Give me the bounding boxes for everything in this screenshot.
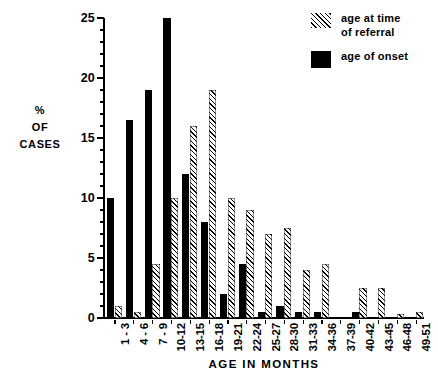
x-axis-title: AGE IN MONTHS (104, 358, 424, 370)
y-tick-minor (100, 245, 104, 246)
y-tick-label: 5 (88, 251, 95, 265)
bar-referral (322, 264, 329, 318)
bar-onset (182, 174, 189, 318)
x-tick-mark (227, 320, 228, 324)
bar-referral (359, 288, 366, 318)
bar-referral (190, 126, 197, 318)
y-tick-minor (100, 233, 104, 234)
y-tick-minor (100, 209, 104, 210)
x-tick-mark (171, 320, 172, 324)
y-tick-major (97, 77, 104, 79)
chart-legend: age at time of referral age of onset (311, 12, 435, 68)
x-tick-label: 13-15 (194, 323, 206, 351)
x-tick-label: 25-27 (270, 323, 282, 351)
bar-referral (246, 210, 253, 318)
legend-onset-line-1: age of onset (341, 50, 408, 64)
bar-referral (265, 234, 272, 318)
y-tick-major (97, 197, 104, 199)
bar-onset (295, 312, 302, 318)
y-tick-minor (100, 125, 104, 126)
x-tick-mark (246, 320, 247, 324)
y-tick-major (97, 17, 104, 19)
bar-onset (107, 198, 114, 318)
x-tick-label: 40-42 (364, 323, 376, 351)
x-tick-label: 31-33 (307, 323, 319, 351)
bar-referral (209, 90, 216, 318)
y-tick-minor (100, 185, 104, 186)
y-tick-minor (100, 41, 104, 42)
x-tick-label: 22-24 (251, 323, 263, 351)
y-tick-minor (100, 293, 104, 294)
x-tick-mark (378, 320, 379, 324)
y-tick-minor (100, 53, 104, 54)
y-tick-minor (100, 221, 104, 222)
y-tick-minor (100, 89, 104, 90)
y-tick-major (97, 137, 104, 139)
x-tick-mark (133, 320, 134, 324)
x-tick-label: 4 - 6 (138, 323, 150, 345)
legend-item-referral-label: age at time of referral (341, 12, 401, 39)
bar-onset (163, 18, 170, 318)
x-tick-label: 10-12 (175, 323, 187, 351)
bar-referral (134, 312, 141, 318)
x-tick-mark (359, 320, 360, 324)
y-tick-label: 15 (81, 131, 95, 145)
x-ticks-layer: 1 - 34 - 67 - 910-1213-1516-1819-2122-24… (104, 320, 424, 354)
y-axis-title-line-2: OF (8, 119, 72, 136)
y-tick-minor (100, 101, 104, 102)
x-tick-label: 43-45 (383, 323, 395, 351)
bar-referral (303, 270, 310, 318)
bar-onset (126, 120, 133, 318)
bar-onset (220, 294, 227, 318)
x-tick-label: 7 - 9 (157, 323, 169, 345)
legend-referral-line-1: age at time (341, 12, 401, 26)
solid-swatch-icon (311, 51, 331, 68)
y-axis-title: % OF CASES (8, 102, 72, 153)
x-tick-label: 37-39 (345, 323, 357, 351)
y-tick-label: 10 (81, 191, 95, 205)
legend-item-onset: age of onset (311, 50, 435, 68)
y-tick-minor (100, 305, 104, 306)
y-tick-minor (100, 281, 104, 282)
x-tick-mark (303, 320, 304, 324)
x-tick-mark (397, 320, 398, 324)
bar-referral (416, 312, 423, 318)
bar-onset (276, 306, 283, 318)
legend-item-onset-label: age of onset (341, 50, 408, 64)
x-tick-mark (209, 320, 210, 324)
bar-onset (352, 312, 359, 318)
bar-onset (201, 222, 208, 318)
x-tick-label: 34-36 (326, 323, 338, 351)
x-tick-label: 46-48 (401, 323, 413, 351)
y-tick-label: 0 (88, 311, 95, 325)
x-tick-label: 28-30 (288, 323, 300, 351)
bar-referral (397, 314, 404, 318)
y-axis-title-line-3: CASES (8, 136, 72, 153)
bar-referral (378, 288, 385, 318)
x-tick-label: 19-21 (232, 323, 244, 351)
y-tick-label: 20 (81, 71, 95, 85)
bar-chart: % OF CASES 0510152025 1 - 34 - 67 - 910-… (0, 0, 438, 378)
x-tick-mark (190, 320, 191, 324)
y-tick-minor (100, 173, 104, 174)
x-tick-mark (284, 320, 285, 324)
x-tick-label: 1 - 3 (119, 323, 131, 345)
y-axis-title-line-1: % (8, 102, 72, 119)
y-tick-minor (100, 113, 104, 114)
bar-referral (171, 198, 178, 318)
x-tick-mark (321, 320, 322, 324)
bar-onset (239, 264, 246, 318)
bar-referral (115, 306, 122, 318)
bar-referral (284, 228, 291, 318)
x-tick-mark (152, 320, 153, 324)
x-tick-mark (114, 320, 115, 324)
y-tick-minor (100, 149, 104, 150)
bar-referral (228, 198, 235, 318)
bar-referral (152, 264, 159, 318)
x-tick-mark (340, 320, 341, 324)
x-tick-label: 16-18 (213, 323, 225, 351)
hatched-swatch-icon (311, 13, 331, 28)
x-tick-label: 49-51 (420, 323, 432, 351)
legend-item-referral: age at time of referral (311, 12, 435, 39)
bar-onset (314, 312, 321, 318)
